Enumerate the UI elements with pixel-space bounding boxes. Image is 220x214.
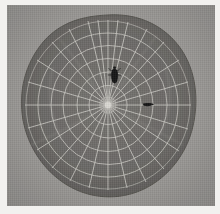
photograph: spider wrapped prey Grayscale photograph… [7,5,215,206]
web-hub [98,95,118,115]
orb-web-figure [7,5,215,206]
photo-frame: spider wrapped prey Grayscale photograph… [0,0,220,214]
